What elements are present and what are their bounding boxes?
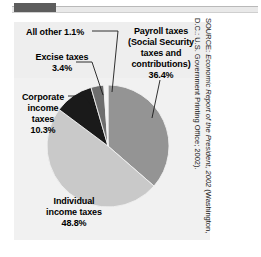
slice-label-all-other: All other 1.1% [26, 27, 84, 38]
slice-label-individual: Individual income taxes 48.8% [22, 196, 126, 229]
source-suffix: (Washington, [204, 187, 213, 233]
source-line-2: D.C.: U.S. Government Printing Office; 2… [192, 18, 203, 240]
slice-label-corporate: Corporate income taxes 10.3% [10, 92, 76, 136]
top-tab-marker [14, 3, 56, 12]
source-prefix: SOURCE: [204, 18, 213, 54]
slice-label-excise: Excise taxes 3.4% [24, 52, 100, 74]
source-line-1: SOURCE: Economic Report of the President… [203, 18, 214, 240]
source-note: SOURCE: Economic Report of the President… [170, 18, 214, 240]
source-title: Economic Report of the President, 2002 [204, 54, 213, 187]
figure-container: All other 1.1% Excise taxes 3.4% Corpora… [0, 0, 261, 257]
